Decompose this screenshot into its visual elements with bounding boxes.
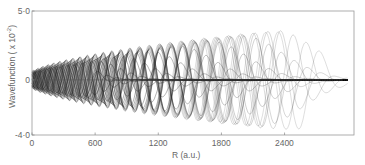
x-tick-label: 2400 <box>275 138 294 148</box>
y-tick-label: 5·0 <box>18 6 30 16</box>
x-tick-label: 0 <box>30 138 35 148</box>
x-tick-label: 600 <box>88 138 102 148</box>
wavefunction-chart <box>0 0 365 165</box>
x-tick-label: 1800 <box>212 138 231 148</box>
y-axis-label: Wavefunction ( x 10-2) <box>6 25 17 108</box>
y-tick-label: -4·0 <box>15 130 30 140</box>
x-axis-label: R (a.u.) <box>172 150 200 160</box>
y-tick-label: 0 <box>25 75 30 85</box>
x-tick-label: 1200 <box>149 138 168 148</box>
wavefunction-curves <box>32 31 348 129</box>
